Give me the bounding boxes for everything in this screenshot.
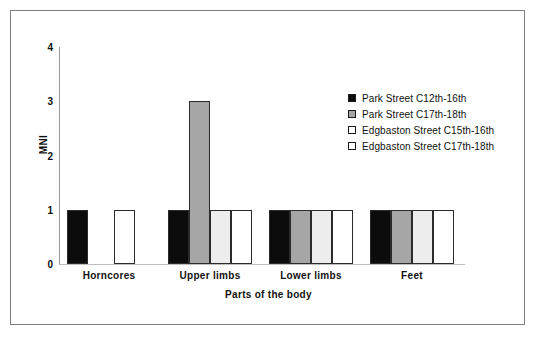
bar-group-upper-limbs	[160, 47, 261, 264]
x-tick-label-feet: Feet	[401, 270, 423, 281]
bar-feet-series-2	[391, 210, 412, 264]
chart-frame: 4 3 2 1 0 MNI	[10, 10, 525, 325]
bar-upper-limbs-series-4	[231, 210, 252, 264]
legend-label-series-3: Edgbaston Street C15th-16th	[362, 125, 494, 136]
y-axis-title: MNI	[38, 125, 49, 165]
bar-feet-series-3	[412, 210, 433, 264]
x-axis-title: Parts of the body	[11, 289, 526, 300]
chart-legend: Park Street C12th-16th Park Street C17th…	[344, 87, 498, 158]
legend-label-series-2: Park Street C17th-18th	[362, 109, 466, 120]
x-tick-label-upper-limbs: Upper limbs	[179, 270, 240, 281]
bar-lower-limbs-series-2	[290, 210, 311, 264]
x-tick-label-lower-limbs: Lower limbs	[280, 270, 342, 281]
bar-horncores-series-1	[67, 210, 88, 264]
y-tick-label-1: 1	[37, 204, 53, 215]
bar-group-horncores	[59, 47, 160, 264]
bar-upper-limbs-series-2	[189, 101, 210, 264]
bar-horncores-series-4	[114, 210, 135, 264]
bar-feet-series-1	[370, 210, 391, 264]
bar-lower-limbs-series-4	[332, 210, 353, 264]
y-tick-label-4: 4	[37, 42, 53, 53]
x-tick-label-horncores: Horncores	[83, 270, 136, 281]
bar-feet-series-4	[433, 210, 454, 264]
series-2-swatch-icon	[348, 110, 356, 118]
legend-label-series-4: Edgbaston Street C17th-18th	[362, 141, 494, 152]
y-tick-label-3: 3	[37, 96, 53, 107]
legend-item-series-4: Edgbaston Street C17th-18th	[348, 138, 494, 154]
bar-upper-limbs-series-1	[168, 210, 189, 264]
bar-lower-limbs-series-1	[269, 210, 290, 264]
y-tick-label-0: 0	[37, 259, 53, 270]
bar-upper-limbs-series-3	[210, 210, 231, 264]
series-3-swatch-icon	[348, 126, 356, 134]
legend-item-series-3: Edgbaston Street C15th-16th	[348, 122, 494, 138]
series-1-swatch-icon	[348, 94, 356, 102]
legend-item-series-1: Park Street C12th-16th	[348, 90, 494, 106]
legend-item-series-2: Park Street C17th-18th	[348, 106, 494, 122]
bar-lower-limbs-series-3	[311, 210, 332, 264]
x-axis-line	[59, 264, 465, 265]
series-4-swatch-icon	[348, 142, 356, 150]
legend-label-series-1: Park Street C12th-16th	[362, 93, 466, 104]
